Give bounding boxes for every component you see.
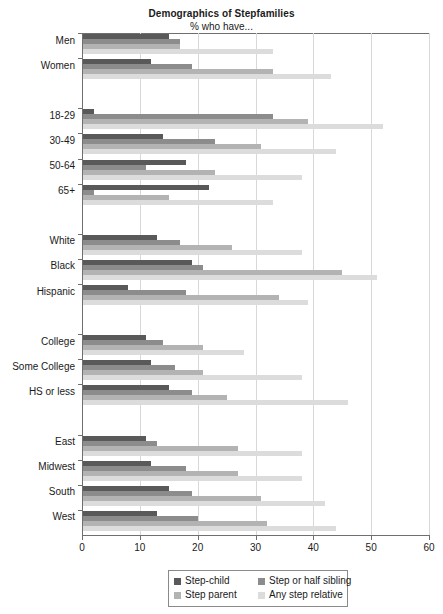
- legend-label: Any step relative: [269, 590, 343, 600]
- y-axis-category-label: Black: [51, 260, 75, 271]
- bar: [83, 275, 377, 280]
- legend-item-step-or-half-sibling: Step or half sibling: [258, 576, 342, 586]
- bar: [83, 175, 302, 180]
- page-title: Demographics of Stepfamilies: [0, 7, 443, 20]
- x-axis-tick: [313, 536, 314, 540]
- x-axis-tick: [198, 536, 199, 540]
- gridline: [256, 33, 257, 535]
- legend-swatch-icon: [258, 592, 265, 599]
- legend-item-any-step-relative: Any step relative: [258, 590, 342, 600]
- bar: [83, 350, 244, 355]
- chart-subtitle: % who have...: [0, 20, 443, 33]
- x-axis-tick: [371, 536, 372, 540]
- gridline: [140, 33, 141, 535]
- y-axis-category-label: Midwest: [38, 461, 75, 472]
- x-axis-tick-label: 40: [293, 542, 333, 553]
- y-axis-category-label: Hispanic: [37, 286, 75, 297]
- bar: [83, 451, 302, 456]
- bar: [83, 200, 273, 205]
- bar: [83, 74, 331, 79]
- x-axis-tick-label: 50: [351, 542, 391, 553]
- chart-legend: Step-child Step or half sibling Step par…: [168, 570, 348, 607]
- y-axis-category-label: West: [52, 511, 75, 522]
- legend-row: Step-child Step or half sibling: [174, 574, 342, 588]
- legend-label: Step-child: [185, 576, 229, 586]
- y-axis-category-label: East: [55, 436, 75, 447]
- legend-swatch-icon: [258, 578, 265, 585]
- bar: [83, 250, 302, 255]
- x-axis-tick-label: 0: [62, 542, 102, 553]
- y-axis-category-label: College: [41, 336, 75, 347]
- bar: [83, 49, 273, 54]
- gridline: [371, 33, 372, 535]
- bar: [83, 375, 302, 380]
- x-axis-tick-label: 20: [178, 542, 218, 553]
- bar: [83, 185, 209, 190]
- x-axis-tick-label: 10: [120, 542, 160, 553]
- x-axis-tick: [82, 536, 83, 540]
- y-axis-category-label: HS or less: [29, 386, 75, 397]
- legend-swatch-icon: [174, 592, 181, 599]
- x-axis-tick-label: 30: [236, 542, 276, 553]
- y-axis-category-label: Men: [56, 35, 75, 46]
- bar: [83, 300, 308, 305]
- chart-title-block: Demographics of Stepfamilies % who have.…: [0, 7, 443, 33]
- bar: [83, 476, 302, 481]
- legend-label: Step parent: [185, 590, 237, 600]
- x-axis-tick: [429, 536, 430, 540]
- gridline: [313, 33, 314, 535]
- y-axis-category-label: Some College: [12, 361, 75, 372]
- y-axis-category-label: 30-49: [49, 135, 75, 146]
- y-axis-category-label: 18-29: [49, 110, 75, 121]
- bar: [83, 400, 348, 405]
- legend-row: Step parent Any step relative: [174, 588, 342, 602]
- x-axis-tick-label: 60: [409, 542, 443, 553]
- bar: [83, 526, 336, 531]
- x-axis-tick: [140, 536, 141, 540]
- legend-item-step-parent: Step parent: [174, 590, 258, 600]
- gridline: [429, 33, 430, 535]
- y-axis-category-label: 65+: [58, 185, 75, 196]
- y-axis-category-label: Women: [41, 60, 75, 71]
- bar: [83, 124, 383, 129]
- bar: [83, 501, 325, 506]
- y-axis-category-label: 50-64: [49, 160, 75, 171]
- y-axis-category-label: White: [49, 235, 75, 246]
- gridline: [198, 33, 199, 535]
- legend-swatch-icon: [174, 578, 181, 585]
- legend-item-step-child: Step-child: [174, 576, 258, 586]
- bar: [83, 149, 336, 154]
- stepfamilies-bar-chart: Demographics of Stepfamilies % who have.…: [0, 0, 443, 614]
- x-axis-tick: [256, 536, 257, 540]
- legend-label: Step or half sibling: [269, 576, 351, 586]
- y-axis-category-label: South: [49, 486, 75, 497]
